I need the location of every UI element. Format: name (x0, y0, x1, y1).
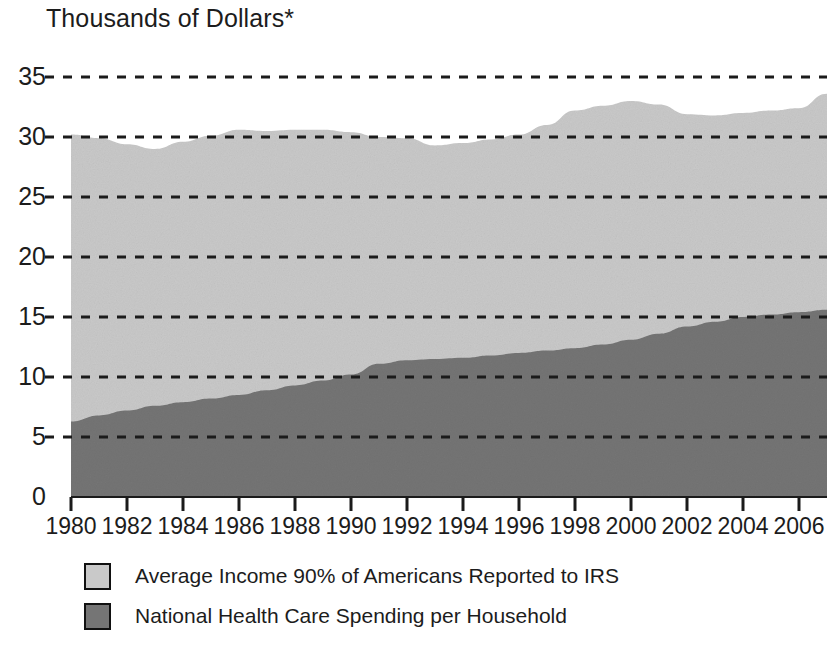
x-axis-tick-label: 2006 (759, 515, 827, 538)
chart-figure: Thousands of Dollars* 05101520253035 198… (0, 0, 827, 648)
y-axis-tick-label: 20 (0, 244, 46, 269)
legend-item: National Health Care Spending per Househ… (84, 596, 619, 636)
y-axis-tick-label: 30 (0, 124, 46, 149)
plot-area (0, 0, 827, 648)
legend-label: National Health Care Spending per Househ… (135, 604, 567, 628)
y-axis-tick-label: 5 (0, 424, 46, 449)
chart-legend: Average Income 90% of Americans Reported… (84, 556, 619, 636)
y-axis-tick-label: 35 (0, 64, 46, 89)
legend-swatch (84, 563, 111, 590)
y-axis-tick-label: 25 (0, 184, 46, 209)
y-axis-tick-label: 10 (0, 364, 46, 389)
legend-swatch (84, 603, 111, 630)
legend-label: Average Income 90% of Americans Reported… (135, 564, 619, 588)
legend-item: Average Income 90% of Americans Reported… (84, 556, 619, 596)
y-axis-tick-label: 15 (0, 304, 46, 329)
y-axis-tick-label: 0 (0, 484, 46, 509)
